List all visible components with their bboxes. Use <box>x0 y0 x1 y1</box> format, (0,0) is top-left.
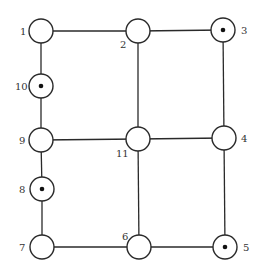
node-label: 9 <box>19 135 25 146</box>
node-label: 8 <box>19 184 25 195</box>
node-9: 9 <box>19 128 53 152</box>
node-label: 5 <box>243 242 249 253</box>
node-10: 10 <box>15 74 53 98</box>
dot-icon <box>221 28 226 33</box>
edge-11-4 <box>138 138 224 139</box>
node-label: 3 <box>241 25 247 36</box>
dot-icon <box>223 245 228 250</box>
node-circle <box>127 235 151 259</box>
node-circle <box>212 126 236 150</box>
node-label: 11 <box>116 148 129 159</box>
node-2: 2 <box>120 19 150 50</box>
node-3: 3 <box>211 18 247 42</box>
edge-11-6 <box>138 139 139 247</box>
node-circle <box>126 127 150 151</box>
edge-3-4 <box>223 30 224 138</box>
node-8: 8 <box>19 177 54 201</box>
node-circle <box>29 19 53 43</box>
dot-icon <box>40 187 45 192</box>
dot-icon <box>39 84 44 89</box>
node-4: 4 <box>212 126 247 150</box>
node-label: 10 <box>15 81 28 92</box>
edge-4-5 <box>224 138 225 247</box>
graph-canvas: 1234567891011 <box>0 0 262 273</box>
node-label: 1 <box>20 26 26 37</box>
node-1: 1 <box>20 19 53 43</box>
node-5: 5 <box>213 235 249 259</box>
node-6: 6 <box>122 231 151 259</box>
node-7: 7 <box>19 235 54 259</box>
graph-diagram: 1234567891011 <box>0 0 262 273</box>
node-circle <box>29 128 53 152</box>
nodes-layer: 1234567891011 <box>15 18 249 259</box>
node-label: 6 <box>122 231 128 242</box>
node-11: 11 <box>116 127 150 159</box>
node-label: 4 <box>241 133 247 144</box>
node-circle <box>126 19 150 43</box>
node-circle <box>30 235 54 259</box>
edge-2-3 <box>138 30 223 31</box>
node-label: 2 <box>120 39 126 50</box>
node-label: 7 <box>19 242 25 253</box>
edge-9-11 <box>41 139 138 140</box>
